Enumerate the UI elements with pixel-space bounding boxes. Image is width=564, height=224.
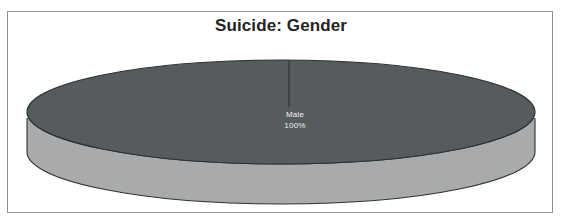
- chart-frame: Suicide: Gender Male 100%: [7, 11, 553, 213]
- slice-label-male: Male 100%: [255, 110, 335, 131]
- slice-percent-text: 100%: [255, 121, 335, 132]
- slice-label-text: Male: [255, 110, 335, 121]
